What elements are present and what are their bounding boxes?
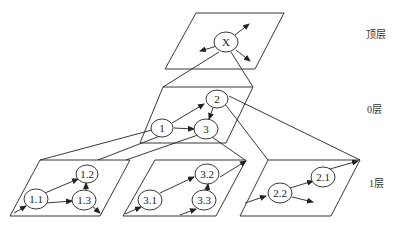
svg-text:1.3: 1.3: [77, 194, 91, 206]
layer-label-0: 0层: [367, 101, 382, 116]
node-3-1: 3.1: [138, 190, 162, 210]
node-3: 3: [194, 119, 218, 139]
node-2: 2: [206, 90, 228, 108]
edge-1-2: [172, 104, 204, 123]
node-2-2: 2.2: [268, 183, 292, 203]
edge-in-1.1: [14, 206, 26, 213]
node-1-2: 1.2: [76, 165, 98, 183]
edge-out-1.3: [92, 206, 100, 213]
node-3-2: 3.2: [195, 164, 219, 184]
svg-text:2: 2: [214, 93, 220, 105]
svg-text:1: 1: [159, 122, 165, 134]
hierarchical-graph-diagram: X 2 1 3 1.1 1.2 1.3 3.1: [0, 0, 397, 230]
edge-in-3.3: [180, 209, 196, 215]
node-2-1: 2.1: [311, 167, 335, 187]
edge-1.1-1.2: [45, 179, 78, 193]
layer-1-plane-3: [123, 160, 246, 216]
projection-line: [212, 137, 245, 160]
edge-2.2-2.1: [290, 181, 313, 188]
edge-out-2.2: [292, 197, 313, 202]
projection-line: [98, 136, 160, 160]
projection-line: [229, 96, 360, 160]
layer-label-1: 1层: [369, 175, 384, 190]
svg-text:3.2: 3.2: [200, 168, 214, 180]
svg-text:1.1: 1.1: [29, 193, 43, 205]
node-x: X: [214, 32, 238, 52]
svg-text:3.3: 3.3: [197, 194, 211, 206]
projection-line: [40, 130, 152, 160]
edge-3.2-out: [220, 161, 246, 177]
node-3-3: 3.3: [192, 190, 216, 210]
layer-1-plane-1: [10, 160, 130, 216]
node-1-3: 1.3: [72, 190, 96, 210]
edge-3.1-3.2: [160, 177, 194, 193]
edge-2-3: [209, 108, 213, 119]
node-1-1: 1.1: [24, 189, 48, 209]
svg-text:3.1: 3.1: [143, 194, 157, 206]
edge-1.1-1.3: [46, 201, 72, 203]
node-1: 1: [151, 119, 173, 137]
svg-text:2.2: 2.2: [273, 187, 287, 199]
svg-text:3: 3: [203, 123, 209, 135]
layer-label-top: 顶层: [366, 26, 386, 41]
svg-text:1.2: 1.2: [80, 168, 94, 180]
edge-1-3: [174, 128, 194, 129]
svg-text:2.1: 2.1: [316, 171, 330, 183]
svg-text:X: X: [222, 36, 230, 48]
layer-1-plane-2: [240, 160, 360, 216]
projection-line: [126, 135, 198, 160]
